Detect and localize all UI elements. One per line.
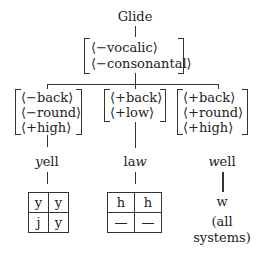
grid-cell: y [29,193,49,213]
branch-tick-right [218,84,219,89]
word-well: well [208,154,235,169]
feature-low: ⟨+low⟩ [110,105,154,120]
branch-bar [47,84,219,85]
connector [47,172,48,184]
feature-high: ⟨+high⟩ [183,120,233,135]
word-rest: ell [220,154,236,169]
orthography-grid: yy jy [28,192,69,233]
orthography-grid: hh —— [107,192,162,233]
word-rest: ell [43,154,59,169]
connector [135,122,136,148]
connector [135,172,136,184]
root-label: Glide [118,9,153,24]
word-prefix: la [123,154,135,169]
grid-cell: — [108,213,135,233]
feature-back: ⟨−back⟩ [21,90,73,105]
left-bracket [84,38,90,74]
grid-cell: j [29,213,49,233]
note-line2: systems) [193,230,251,245]
branch-tick-middle [135,84,136,89]
grid-cell: h [108,193,135,213]
feature-back: ⟨+back⟩ [110,90,162,105]
root-connector [135,26,136,37]
grid-cell: y [49,213,69,233]
branch-tick-left [47,84,48,89]
matrix-connector [135,73,136,84]
feature-consonantal: ⟨−consonantal⟩ [91,56,192,71]
word-italic: w [208,154,219,169]
grid-cell: — [135,213,162,233]
feature-vocalic: ⟨−vocalic⟩ [91,40,158,55]
feature-high: ⟨+high⟩ [21,120,71,135]
result-symbol: w [216,194,227,209]
note-line1: (all [211,214,232,229]
feature-round: ⟨−round⟩ [21,105,81,120]
word-yell: yell [35,154,58,169]
connector [47,135,48,147]
feature-round: ⟨+round⟩ [183,105,243,120]
grid-cell: h [135,193,162,213]
connector [222,172,224,192]
feature-back: ⟨+back⟩ [183,90,235,105]
word-law: law [123,154,146,169]
grid-cell: y [49,193,69,213]
word-italic: w [135,154,146,169]
